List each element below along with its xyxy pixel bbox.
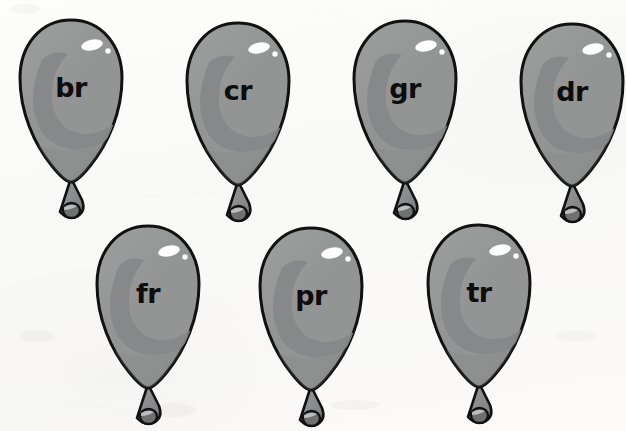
balloon-knot (137, 384, 160, 424)
balloon-fr[interactable]: fr (93, 222, 203, 422)
balloon-graphic (256, 224, 366, 424)
balloon-knot (227, 181, 250, 221)
balloon-br[interactable]: br (16, 16, 126, 216)
balloon-knot (468, 383, 491, 423)
balloon-knot (60, 178, 83, 218)
balloon-highlight-dot-icon (345, 256, 350, 261)
balloon-knot (561, 182, 584, 222)
balloon-dr[interactable]: dr (517, 20, 626, 220)
balloon-pr[interactable]: pr (256, 224, 366, 424)
balloon-graphic (93, 222, 203, 422)
balloon-knot (300, 386, 323, 426)
paper-blotch (556, 330, 596, 342)
balloon-graphic (183, 19, 293, 219)
balloon-graphic (16, 16, 126, 216)
worksheet-canvas: brcrgrdrfrprtr (0, 0, 626, 431)
balloon-highlight-dot-icon (272, 51, 277, 56)
balloon-graphic (350, 17, 460, 217)
balloon-knot (394, 179, 417, 219)
balloon-highlight-dot-icon (439, 49, 444, 54)
paper-crease (8, 292, 72, 321)
balloon-highlight-dot-icon (105, 48, 110, 53)
balloon-graphic (517, 20, 626, 220)
balloon-graphic (424, 221, 534, 421)
paper-crease (150, 6, 196, 13)
balloon-tr[interactable]: tr (424, 221, 534, 421)
paper-blotch (20, 330, 54, 342)
paper-blotch (10, 4, 40, 14)
balloon-highlight-dot-icon (182, 254, 187, 259)
balloon-cr[interactable]: cr (183, 19, 293, 219)
balloon-highlight-dot-icon (606, 52, 611, 57)
balloon-highlight-dot-icon (513, 253, 518, 258)
balloon-gr[interactable]: gr (350, 17, 460, 217)
